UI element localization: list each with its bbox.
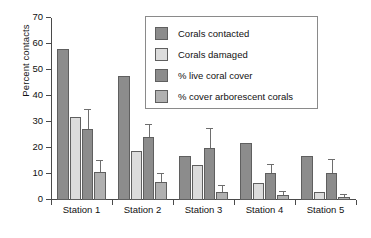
legend-item: Corals damaged [146,44,317,65]
y-tick-label: 70 [32,11,43,23]
y-tick-label: 30 [32,115,43,127]
y-tick-label: 40 [32,89,43,101]
error-bar-cap [84,109,91,110]
error-bar-cap [206,128,213,129]
legend-swatch [155,90,168,103]
legend-swatch [155,48,168,61]
error-bar-cap [218,185,225,186]
error-bar [88,110,89,128]
error-bar [100,161,101,172]
x-axis-label: Station 1 [51,204,112,215]
chart-legend: Corals contactedCorals damaged% live cor… [145,16,318,109]
x-axis-label: Station 3 [173,204,234,215]
bar [277,195,289,200]
error-bar-cap [279,191,286,192]
error-bar [149,125,150,137]
error-bar-cap [328,159,335,160]
legend-label: Corals damaged [178,49,248,60]
error-bar [332,160,333,174]
bar [192,165,204,200]
y-tick-label: 0 [38,193,43,205]
legend-label: % live coral cover [178,70,252,81]
error-bar [271,165,272,174]
bar [314,192,326,200]
error-bar-cap [145,124,152,125]
bar [301,156,313,200]
error-bar [161,174,162,182]
legend-swatch [155,27,168,40]
y-tick-label: 60 [32,37,43,49]
bar [253,183,265,200]
error-bar-cap [96,160,103,161]
bar [265,173,277,200]
error-bar [210,129,211,148]
y-tick-label: 20 [32,141,43,153]
error-bar-cap [267,164,274,165]
bar [204,148,216,200]
bar [326,173,338,200]
legend-swatch [155,69,168,82]
bar-chart: Percent contacts 010203040506070 Station… [0,0,371,238]
x-axis-label: Station 5 [295,204,356,215]
legend-label: % cover arborescent corals [178,91,293,102]
y-axis-title: Percent contacts [20,0,31,131]
bar-group [51,18,112,200]
error-bar-cap [157,173,164,174]
bar [155,182,167,200]
bar [118,76,130,200]
legend-label: Corals contacted [178,28,249,39]
bar [143,137,155,200]
x-tick [356,200,357,205]
bar [57,49,69,200]
x-axis-label: Station 2 [112,204,173,215]
bar [179,156,191,200]
y-tick-label: 50 [32,63,43,75]
error-bar-cap [340,194,347,195]
error-bar [222,186,223,193]
bar [338,197,350,200]
bar [216,192,228,200]
legend-item: % live coral cover [146,65,317,86]
legend-item: % cover arborescent corals [146,86,317,107]
error-bar [283,192,284,195]
y-tick-label: 10 [32,167,43,179]
bar [82,129,94,201]
legend-item: Corals contacted [146,23,317,44]
x-axis-label: Station 4 [234,204,295,215]
bar [70,117,82,200]
bar [240,143,252,200]
bar [131,151,143,200]
error-bar [344,195,345,197]
bar [94,172,106,200]
